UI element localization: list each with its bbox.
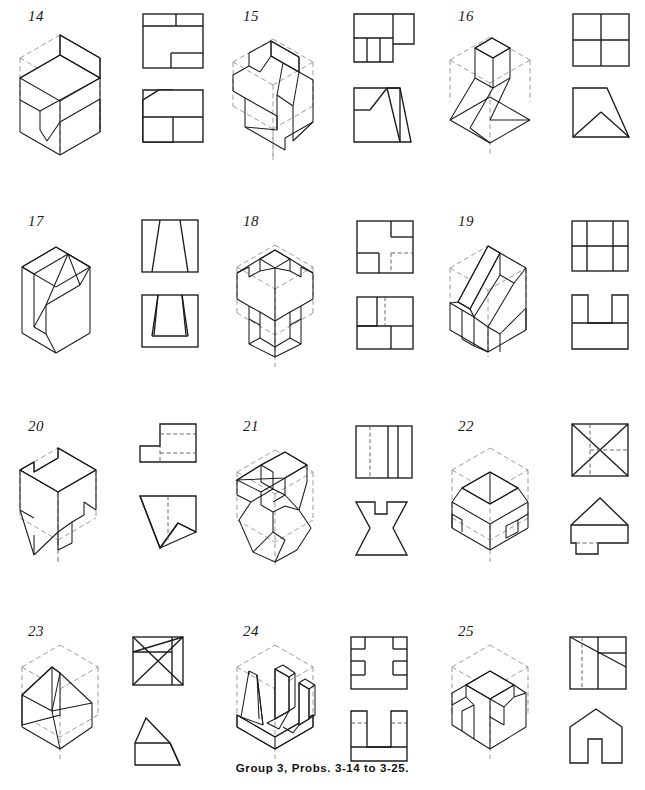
- problem-18-front-view: [357, 297, 413, 349]
- problem-16-isometric: [450, 37, 530, 154]
- problem-24-front-view: [351, 711, 407, 761]
- isometric-solid: [20, 35, 100, 155]
- problem-24-isometric: [237, 645, 315, 759]
- problem-14-top-view: [143, 14, 203, 68]
- problem-22-drawing: [430, 410, 645, 615]
- isometric-solid: [237, 665, 315, 749]
- problem-25-isometric: [452, 645, 528, 759]
- problem-19-front-view: [572, 295, 628, 349]
- problem-19-top-view: [572, 221, 628, 271]
- problem-19-drawing: [430, 205, 645, 410]
- problem-16-top-view: [573, 14, 629, 66]
- problem-25-front-view: [570, 709, 622, 763]
- problem-cell-18[interactable]: 18: [215, 205, 430, 410]
- problem-cell-16[interactable]: 16: [430, 0, 645, 205]
- problem-22-isometric: [452, 448, 528, 562]
- problem-cell-20[interactable]: 20: [0, 410, 215, 615]
- problem-21-front-view: [356, 502, 407, 555]
- problem-23-top-view: [133, 637, 183, 685]
- problem-cell-17[interactable]: 17: [0, 205, 215, 410]
- problem-25-top-view: [570, 637, 626, 689]
- problem-15-front-view: [354, 88, 411, 142]
- problem-16-drawing: [430, 0, 645, 205]
- problems-grid: 14: [0, 0, 645, 760]
- problem-cell-15[interactable]: 15: [215, 0, 430, 205]
- problem-15-drawing: [215, 0, 430, 205]
- isometric-solid: [452, 671, 526, 749]
- isometric-solid: [237, 452, 311, 562]
- problem-14-drawing: [0, 0, 215, 205]
- problem-14-isometric: [20, 35, 100, 155]
- problem-21-top-view: [356, 426, 412, 478]
- problem-18-top-view: [357, 221, 413, 273]
- problem-cell-21[interactable]: 21: [215, 410, 430, 615]
- problem-17-isometric: [22, 247, 90, 353]
- problem-cell-19[interactable]: 19: [430, 205, 645, 410]
- problem-17-top-view: [142, 220, 198, 272]
- problem-14-front-view: [143, 90, 203, 142]
- problem-15-top-view: [354, 14, 414, 62]
- problem-23-isometric: [22, 645, 98, 759]
- problem-17-front-view: [142, 295, 198, 347]
- problem-18-drawing: [215, 205, 430, 410]
- problem-20-isometric: [20, 448, 96, 562]
- problem-20-drawing: [0, 410, 215, 615]
- isometric-solid: [22, 667, 92, 749]
- problem-23-front-view: [135, 718, 180, 765]
- problem-18-isometric: [237, 245, 313, 367]
- page-caption: Group 3, Probs. 3-14 to 3-25.: [0, 762, 645, 774]
- isometric-solid: [237, 250, 313, 357]
- problem-21-drawing: [215, 410, 430, 615]
- problem-15-isometric: [233, 39, 313, 160]
- problem-16-front-view: [573, 88, 629, 137]
- problem-17-drawing: [0, 205, 215, 410]
- problem-22-top-view: [572, 424, 628, 476]
- problem-21-isometric: [237, 450, 313, 566]
- problem-cell-14[interactable]: 14: [0, 0, 215, 205]
- problem-20-front-view: [140, 496, 196, 548]
- isometric-solid: [20, 448, 96, 555]
- isometric-solid: [22, 247, 90, 353]
- problem-20-top-view: [140, 424, 196, 462]
- problem-24-top-view: [351, 637, 407, 689]
- problem-cell-22[interactable]: 22: [430, 410, 645, 615]
- problem-22-front-view: [571, 498, 628, 554]
- drawing-page: 14: [0, 0, 645, 790]
- problem-19-isometric: [450, 246, 526, 357]
